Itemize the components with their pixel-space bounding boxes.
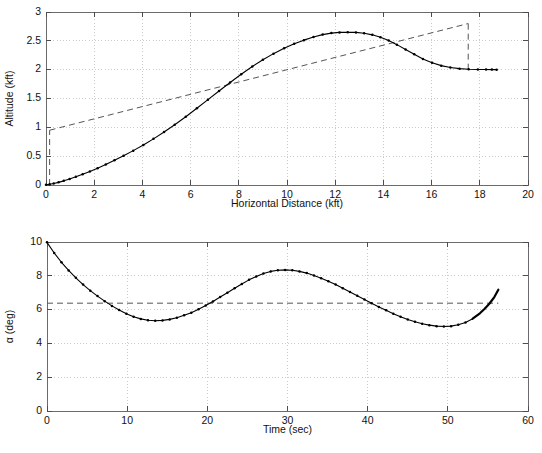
data-point (327, 280, 330, 283)
x-tick-label: 14 (378, 188, 390, 200)
y-tick-label: 3 (35, 5, 41, 17)
data-point (414, 321, 417, 324)
x-tick-label: 10 (121, 414, 133, 426)
data-point (387, 39, 390, 42)
data-point (378, 306, 381, 309)
data-point (152, 138, 155, 141)
y-axis-label: α (deg) (3, 310, 15, 344)
x-tick-label: 16 (426, 188, 438, 200)
data-point (457, 324, 460, 327)
data-point (81, 173, 84, 176)
data-point (60, 261, 63, 264)
x-axis-label: Time (sec) (263, 423, 312, 435)
data-point (284, 269, 287, 272)
data-point (428, 324, 431, 327)
data-point (185, 115, 188, 118)
x-tick-label: 50 (442, 414, 454, 426)
data-point (467, 68, 470, 71)
data-point (449, 66, 452, 69)
x-tick-label: 60 (522, 414, 534, 426)
data-point (370, 302, 373, 305)
figure-panel: 0246810121416182000.511.522.53Horizontal… (0, 0, 542, 453)
x-tick-label: 6 (188, 188, 194, 200)
x-axis-label: Horizontal Distance (kft) (231, 197, 343, 209)
y-tick-label: 2 (36, 370, 42, 382)
data-point (218, 90, 221, 93)
y-tick-label: 2.5 (26, 34, 41, 46)
data-point (293, 43, 296, 46)
data-point (219, 296, 222, 299)
alpha-chart-svg: 01020304050600246810Time (sec)α (deg) (0, 225, 542, 453)
data-point (207, 98, 210, 101)
data-point (312, 36, 315, 39)
data-point (82, 283, 85, 286)
data-point (421, 323, 424, 326)
data-point (68, 178, 71, 181)
data-point (330, 32, 333, 35)
x-tick-label: 0 (43, 188, 49, 200)
y-tick-label: 4 (36, 336, 42, 348)
data-point (89, 289, 92, 292)
x-tick-label: 4 (139, 188, 145, 200)
data-point (320, 277, 323, 280)
chart-altitude-vs-distance: 0246810121416182000.511.522.53Horizontal… (0, 0, 542, 222)
data-point (229, 81, 232, 84)
data-point (142, 144, 145, 147)
data-point (385, 309, 388, 312)
data-point (168, 318, 171, 321)
data-point (233, 287, 236, 290)
data-point (89, 170, 92, 173)
y-tick-label: 0 (35, 178, 41, 190)
data-point (495, 68, 498, 71)
y-tick-label: 1.5 (26, 91, 41, 103)
data-point (240, 73, 243, 76)
data-point (413, 53, 416, 56)
data-point (197, 308, 200, 311)
x-tick-label: 0 (44, 414, 50, 426)
y-tick-label: 0.5 (26, 149, 41, 161)
data-point (458, 67, 461, 70)
data-point (291, 269, 294, 272)
data-point (204, 304, 207, 307)
data-point (272, 52, 275, 55)
data-point (404, 48, 407, 51)
data-point (251, 65, 254, 68)
data-point (443, 325, 446, 328)
data-point (422, 58, 425, 61)
data-point (176, 316, 179, 319)
data-point (450, 325, 453, 328)
data-point (363, 32, 366, 35)
data-point (67, 269, 70, 272)
data-point (346, 31, 349, 34)
data-point (118, 309, 121, 312)
chart-alpha-vs-time: 01020304050600246810Time (sec)α (deg) (0, 225, 542, 453)
data-point (399, 315, 402, 318)
y-tick-label: 1 (35, 120, 41, 132)
data-point (392, 312, 395, 315)
x-tick-label: 18 (474, 188, 486, 200)
data-point (96, 295, 99, 298)
y-tick-label: 10 (30, 235, 42, 247)
data-point (342, 287, 345, 290)
data-point (435, 325, 438, 328)
data-point (269, 270, 272, 273)
data-point (183, 314, 186, 317)
data-point (485, 68, 488, 71)
data-point (371, 34, 374, 37)
data-point (163, 131, 166, 134)
data-point (477, 68, 480, 71)
data-point (75, 176, 78, 179)
altitude-chart-svg: 0246810121416182000.511.522.53Horizontal… (0, 0, 542, 222)
data-point (226, 291, 229, 294)
data-point (63, 180, 66, 183)
data-point (277, 269, 280, 272)
data-point (305, 272, 308, 275)
data-point (96, 167, 99, 170)
data-point (125, 312, 128, 315)
data-point (334, 283, 337, 286)
data-point (190, 311, 193, 314)
data-point (298, 270, 301, 273)
y-axis-label: Altitude (kft) (3, 70, 15, 126)
data-point (262, 58, 265, 61)
x-tick-label: 20 (201, 414, 213, 426)
